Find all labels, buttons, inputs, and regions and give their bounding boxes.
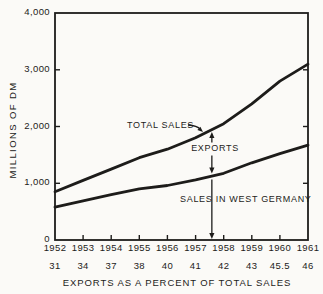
sales-exports-chart: MILLIONS OF DM 01,0002,0003,0004,000 195… (0, 0, 323, 294)
y-tick-label: 1,000 (8, 177, 50, 187)
x-tick-label: 1956 (156, 243, 179, 253)
x-tick-label: 1958 (212, 243, 235, 253)
percent-value: 38 (134, 261, 145, 271)
percent-value: 31 (49, 261, 60, 271)
total-sales-label: TOTAL SALES (127, 120, 194, 130)
x-tick-label: 1961 (297, 243, 320, 253)
percent-value: 46 (302, 261, 313, 271)
x-tick-label: 1959 (240, 243, 263, 253)
arrowhead (209, 233, 214, 239)
percent-value: 34 (77, 261, 88, 271)
percent-value: 40 (162, 261, 173, 271)
x-tick-label: 1955 (128, 243, 151, 253)
y-tick-label: 4,000 (8, 7, 50, 17)
arrowhead (209, 132, 214, 138)
exports-label: EXPORTS (191, 143, 239, 153)
percent-value: 45.5 (270, 261, 290, 271)
x-tick-label: 1952 (44, 243, 67, 253)
arrowhead (209, 168, 214, 174)
x-tick-label: 1954 (100, 243, 123, 253)
percent-value: 42 (218, 261, 229, 271)
x-tick-label: 1960 (269, 243, 292, 253)
percent-value: 43 (246, 261, 257, 271)
percent-value: 41 (190, 261, 201, 271)
y-tick-label: 2,000 (8, 121, 50, 131)
y-tick-label: 3,000 (8, 64, 50, 74)
x-tick-label: 1957 (184, 243, 207, 253)
x-axis-caption: EXPORTS AS A PERCENT OF TOTAL SALES (63, 277, 291, 288)
west-germany-sales-label: SALES IN WEST GERMANY (180, 194, 312, 204)
x-tick-label: 1953 (72, 243, 95, 253)
percent-value: 37 (106, 261, 117, 271)
